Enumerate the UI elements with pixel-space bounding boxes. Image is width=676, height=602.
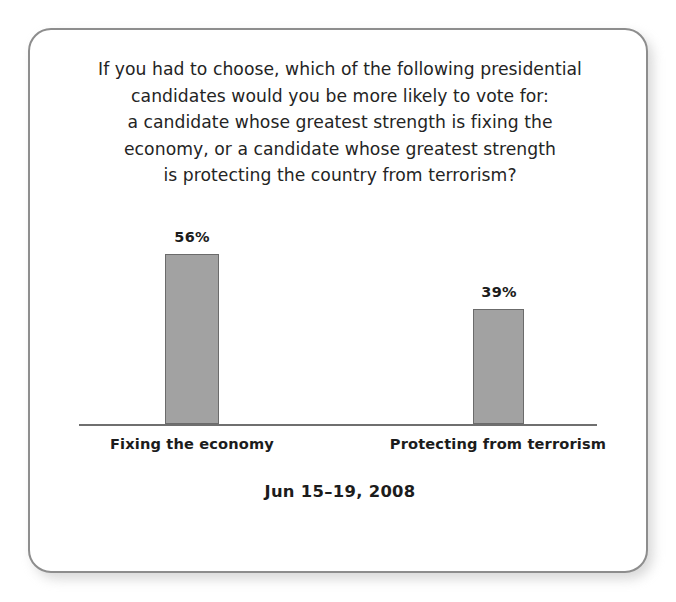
date-range-caption: Jun 15–19, 2008 [30,482,650,501]
poll-result-card: If you had to choose, which of the follo… [28,28,648,573]
category-label-economy: Fixing the economy [72,435,312,452]
x-axis-baseline [79,424,597,426]
bar-value-label-terrorism: 39% [460,284,538,300]
bar-terrorism [473,309,524,424]
bar-value-label-economy: 56% [153,229,231,245]
bar-economy [165,254,219,424]
category-label-terrorism: Protecting from terrorism [378,435,618,452]
